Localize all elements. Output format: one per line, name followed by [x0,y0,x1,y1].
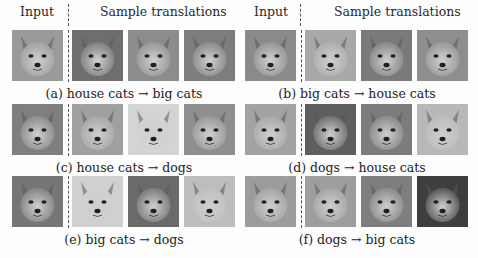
sample-image-2 [128,104,179,155]
header-input-right: Input [254,4,288,19]
input-divider [68,30,69,82]
animal-face-icon [128,104,179,155]
header-divider-left [68,4,69,26]
sample-image-1 [305,104,356,155]
panel-d: (d) dogs → house cats [241,104,473,176]
input-image [245,30,296,81]
animal-face-icon [361,176,412,227]
sample-image-3 [417,176,468,227]
sample-image-3 [417,30,468,81]
sample-image-1 [305,30,356,81]
animal-face-icon [245,176,296,227]
panel-caption: (a) house cats → big cats [8,86,240,101]
animal-face-icon [361,104,412,155]
panel-e: (e) big cats → dogs [8,176,240,248]
input-divider [301,30,302,82]
sample-image-3 [184,104,235,155]
animal-face-icon [305,176,356,227]
animal-face-icon [245,30,296,81]
sample-image-1 [305,176,356,227]
sample-image-2 [128,30,179,81]
animal-face-icon [72,176,123,227]
animal-face-icon [417,104,468,155]
input-divider [68,176,69,228]
animal-face-icon [184,104,235,155]
panel-caption: (e) big cats → dogs [8,232,240,247]
panel-a: (a) house cats → big cats [8,30,240,102]
panel-caption: (b) big cats → house cats [241,86,473,101]
input-image [12,104,63,155]
sample-image-2 [361,176,412,227]
panel-b: (b) big cats → house cats [241,30,473,102]
sample-image-3 [184,30,235,81]
animal-face-icon [12,104,63,155]
animal-face-icon [128,30,179,81]
sample-image-3 [417,104,468,155]
sample-image-3 [184,176,235,227]
sample-image-2 [128,176,179,227]
header-input-left: Input [20,4,54,19]
input-image [245,176,296,227]
header-samples-left: Sample translations [100,4,227,19]
animal-face-icon [417,30,468,81]
panel-c: (c) house cats → dogs [8,104,240,176]
animal-face-icon [72,30,123,81]
panel-caption: (c) house cats → dogs [8,160,240,175]
animal-face-icon [12,30,63,81]
sample-image-2 [361,30,412,81]
sample-image-2 [361,104,412,155]
animal-face-icon [72,104,123,155]
panel-caption: (f) dogs → big cats [241,232,473,247]
input-image [12,30,63,81]
sample-image-1 [72,30,123,81]
animal-face-icon [305,104,356,155]
panel-f: (f) dogs → big cats [241,176,473,248]
input-divider [301,104,302,156]
animal-face-icon [417,176,468,227]
animal-face-icon [128,176,179,227]
input-image [12,176,63,227]
input-image [245,104,296,155]
animal-face-icon [184,176,235,227]
input-divider [68,104,69,156]
header-divider-right [300,4,301,26]
animal-face-icon [361,30,412,81]
header-samples-right: Sample translations [334,4,461,19]
sample-image-1 [72,176,123,227]
animal-face-icon [305,30,356,81]
animal-face-icon [12,176,63,227]
sample-image-1 [72,104,123,155]
input-divider [301,176,302,228]
animal-face-icon [245,104,296,155]
animal-face-icon [184,30,235,81]
panel-caption: (d) dogs → house cats [241,160,473,175]
